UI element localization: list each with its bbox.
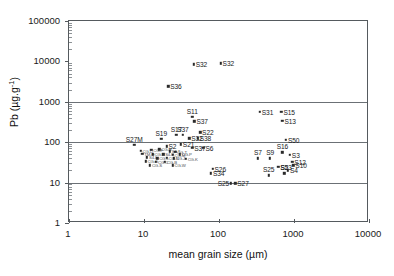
x-axis-tick-label: 100 — [210, 228, 226, 239]
y-axis-title-tail: ) — [8, 77, 20, 81]
x-axis-tick-label: 10000 — [355, 228, 381, 239]
x-axis-tick-label: 10 — [138, 228, 149, 239]
y-axis-title: Pb (µg.g-1) — [8, 42, 20, 162]
y-axis-title-exponent: -1 — [7, 80, 16, 87]
x-axis-tick-label: 1 — [65, 228, 70, 239]
x-axis-title: mean grain size (µm) — [68, 248, 368, 260]
x-axis-tick-label: 1000 — [282, 228, 303, 239]
x-axis-tick-labels: 110100100010000 — [0, 0, 394, 276]
y-axis-title-main: Pb (µg.g — [8, 87, 20, 127]
scatter-plot-figure: S32S32S36S11S37S22S17S37S19S32S38S27MS2S… — [0, 0, 394, 276]
